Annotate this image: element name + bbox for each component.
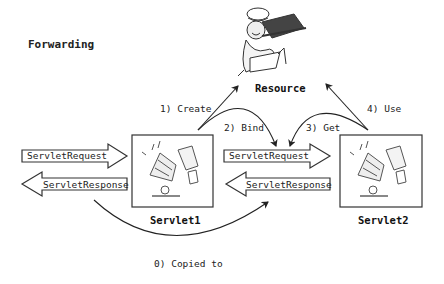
left-request-label: ServletRequest bbox=[27, 150, 107, 161]
mid-response-label: ServletResponse bbox=[246, 179, 332, 190]
step-get-label: 3) Get bbox=[306, 122, 340, 133]
left-response-label: ServletResponse bbox=[43, 179, 129, 190]
step-use-label: 4) Use bbox=[367, 103, 401, 114]
step-create-label: 1) Create bbox=[160, 103, 211, 114]
diagram-title: Forwarding bbox=[28, 38, 94, 51]
mid-request-label: ServletRequest bbox=[229, 150, 309, 161]
servlet1-label: Servlet1 bbox=[150, 214, 201, 226]
resource-label: Resource bbox=[255, 82, 306, 94]
servlet2-label: Servlet2 bbox=[358, 214, 409, 226]
resource-illustration bbox=[238, 8, 306, 76]
step-copied-label: 0) Copied to bbox=[154, 258, 223, 269]
step-bind-label: 2) Bind bbox=[224, 122, 264, 133]
